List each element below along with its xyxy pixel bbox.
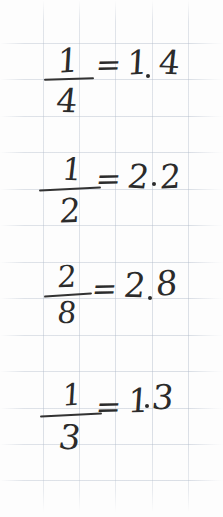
handwriting-photo: 1 4 = 1 4 1/4 = 1.4 1 2 = 2 2 1/2 = 2.2 … — [0, 0, 223, 517]
equation-row: 1 4 = 1 4 1/4 = 1.4 — [0, 40, 223, 136]
fraction-denominator: 8 — [52, 297, 81, 328]
result-fraction-part: 4 — [157, 46, 182, 80]
result-fraction-part: 8 — [155, 265, 179, 301]
fraction-numerator: 2 — [53, 262, 81, 293]
equals-sign: = — [94, 164, 122, 194]
result-whole-part: 2 — [122, 268, 147, 302]
equation-row: 1 2 = 2 2 1/2 = 2.2 — [0, 152, 223, 248]
result-whole-part: 1 — [127, 384, 150, 418]
fraction: 1 2 — [42, 152, 90, 230]
grid-line-horizontal — [0, 371, 223, 372]
decimal-point — [148, 296, 152, 300]
equation-row: 1 3 = 1 3 1/3 = 1.3 — [0, 378, 223, 474]
fraction: 1 4 — [48, 40, 90, 118]
grid-line-horizontal — [0, 480, 223, 481]
result-fraction-part: 3 — [150, 380, 175, 414]
decimal-point — [152, 182, 156, 186]
result-fraction-part: 2 — [159, 159, 182, 193]
equals-sign: = — [94, 50, 122, 80]
fraction-numerator: 1 — [55, 43, 81, 78]
equals-sign: = — [90, 274, 118, 304]
decimal-point — [145, 404, 149, 408]
fraction-denominator: 2 — [55, 193, 85, 227]
fraction-denominator: 4 — [52, 84, 82, 118]
fraction: 1 3 — [40, 378, 92, 458]
fraction-numerator: 1 — [58, 154, 86, 186]
equals-sign: = — [94, 392, 122, 422]
fraction-numerator: 1 — [59, 379, 85, 411]
decimal-point — [146, 74, 150, 78]
result-whole-part: 2 — [125, 159, 151, 193]
fraction: 2 8 — [48, 262, 90, 336]
equation-row: 2 8 = 2 8 2/8 = 2.8 — [0, 262, 223, 358]
fraction-denominator: 3 — [53, 419, 86, 455]
